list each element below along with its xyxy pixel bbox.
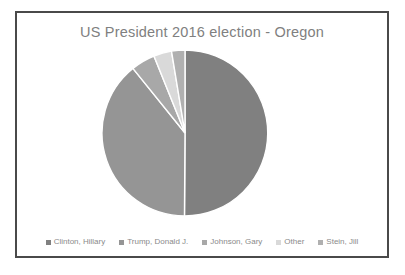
legend-item-label: Stein, Jill xyxy=(326,238,358,246)
legend-item[interactable]: Trump, Donald J. xyxy=(119,238,188,246)
legend-swatch-icon xyxy=(276,240,281,245)
legend-item-label: Clinton, Hillary xyxy=(54,238,106,246)
legend-swatch-icon xyxy=(46,240,51,245)
pie-slice-group xyxy=(102,50,268,216)
pie-slice[interactable] xyxy=(184,50,267,216)
chart-legend: Clinton, HillaryTrump, Donald J.Johnson,… xyxy=(17,238,387,246)
legend-item-label: Other xyxy=(284,238,304,246)
pie-chart xyxy=(100,48,270,218)
chart-frame: US President 2016 election - Oregon Clin… xyxy=(15,11,389,258)
legend-item[interactable]: Other xyxy=(276,238,304,246)
legend-item[interactable]: Johnson, Gary xyxy=(202,238,262,246)
legend-swatch-icon xyxy=(318,240,323,245)
legend-item-label: Trump, Donald J. xyxy=(127,238,188,246)
legend-swatch-icon xyxy=(202,240,207,245)
pie-plot-area xyxy=(17,13,387,256)
legend-swatch-icon xyxy=(119,240,124,245)
legend-item[interactable]: Clinton, Hillary xyxy=(46,238,106,246)
legend-item[interactable]: Stein, Jill xyxy=(318,238,358,246)
legend-item-label: Johnson, Gary xyxy=(210,238,262,246)
